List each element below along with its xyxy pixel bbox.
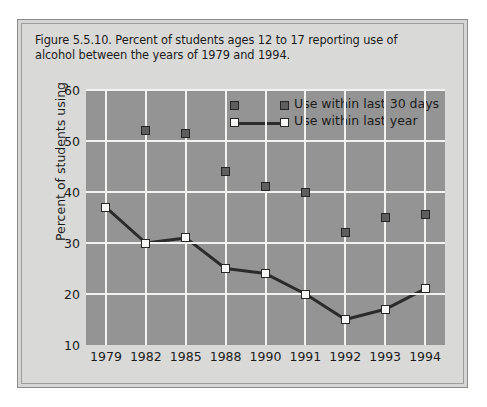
data-point-last-year [301,290,310,299]
data-point-last-year [221,264,230,273]
x-axis-tick-labels: 197919821985198819901991199219931994 [86,349,445,371]
data-point-last-30-days [341,228,350,237]
y-axis-tick-label: 60 [40,83,80,98]
y-axis-tick-label: 20 [40,287,80,302]
data-point-last-30-days [181,129,190,138]
data-point-last-year [341,315,350,324]
data-point-last-year [381,305,390,314]
figure-card: Figure 5.5.10. Percent of students ages … [17,19,468,388]
legend-swatch-light-right-icon [280,118,289,127]
legend-swatch-dark-right-icon [280,101,289,110]
legend-item-last-year: Use within last year [216,115,426,131]
data-point-last-30-days [301,188,310,197]
data-point-last-30-days [421,210,430,219]
data-point-last-year [141,239,150,248]
legend-label-last-year: Use within last year [294,113,418,128]
plot-area: Use within last 30 days Use within last … [86,90,445,345]
figure-inner-frame: Figure 5.5.10. Percent of students ages … [21,23,464,384]
gridline-vertical [304,90,306,345]
y-axis-tick-labels: 605040302010 [36,90,80,345]
gridline-vertical [265,90,267,345]
data-point-last-year [101,203,110,212]
legend-label-last-30-days: Use within last 30 days [294,96,439,111]
y-axis-tick-label: 10 [40,338,80,353]
data-point-last-30-days [141,126,150,135]
chart-legend: Use within last 30 days Use within last … [216,98,426,134]
data-point-last-30-days [381,213,390,222]
legend-swatch-dark-left-icon [230,101,239,110]
gridline-vertical [344,90,346,345]
x-axis-tick-label: 1994 [395,349,455,364]
gridline-vertical [225,90,227,345]
gridline-vertical [105,90,107,345]
figure-caption: Figure 5.5.10. Percent of students ages … [35,33,440,62]
legend-item-last-30-days: Use within last 30 days [216,98,426,114]
data-point-last-30-days [221,167,230,176]
legend-swatch-light-left-icon [230,118,239,127]
data-point-last-year [261,269,270,278]
data-point-last-year [421,284,430,293]
y-axis-tick-label: 50 [40,134,80,149]
y-axis-tick-label: 40 [40,185,80,200]
y-axis-tick-label: 30 [40,236,80,251]
data-point-last-30-days [261,182,270,191]
data-point-last-year [181,233,190,242]
